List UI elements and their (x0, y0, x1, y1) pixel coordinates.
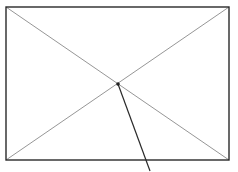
center-point (116, 82, 120, 86)
diagram-canvas (0, 0, 238, 172)
